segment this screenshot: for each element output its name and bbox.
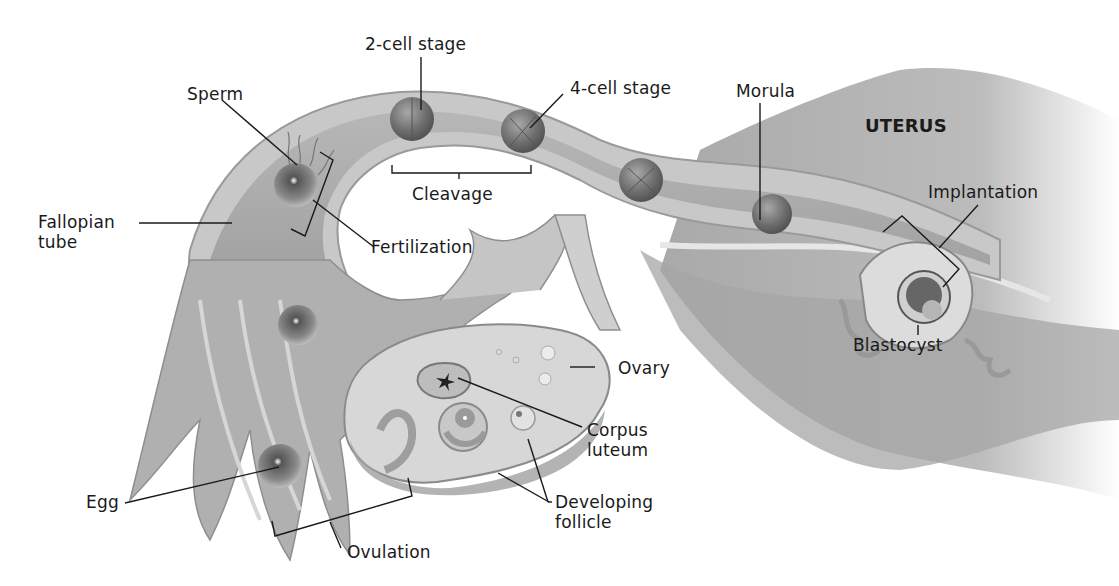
reproduction-diagram: 2-cell stage 4-cell stage Morula UTERUS … (0, 0, 1119, 586)
label-ovary: Ovary (618, 358, 670, 378)
label-developing-line1: Developing (555, 492, 653, 512)
label-corpus-line1: Corpus (587, 420, 648, 440)
label-fallopian-tube: Fallopian tube (38, 212, 115, 252)
label-sperm: Sperm (187, 84, 243, 104)
label-ovulation: Ovulation (347, 542, 431, 562)
label-developing-follicle: Developing follicle (555, 492, 653, 532)
label-fertilization: Fertilization (371, 237, 473, 257)
label-fallopian-line1: Fallopian (38, 212, 115, 232)
label-corpus-line2: luteum (587, 440, 648, 460)
label-uterus: UTERUS (865, 116, 947, 136)
label-4-cell-stage: 4-cell stage (570, 78, 671, 98)
ovary (344, 324, 609, 495)
label-2-cell-stage: 2-cell stage (365, 34, 466, 54)
label-developing-line2: follicle (555, 512, 653, 532)
label-blastocyst: Blastocyst (853, 335, 943, 355)
label-egg: Egg (86, 492, 119, 512)
label-corpus-luteum: Corpus luteum (587, 420, 648, 460)
label-fallopian-line2: tube (38, 232, 115, 252)
label-implantation: Implantation (928, 182, 1038, 202)
label-morula: Morula (736, 81, 795, 101)
label-cleavage: Cleavage (412, 184, 493, 204)
